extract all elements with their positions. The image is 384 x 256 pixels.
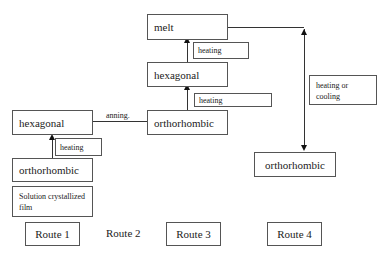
node-label: Solution crystallized film — [19, 191, 89, 213]
edge-label-heating-mid: heating — [194, 93, 272, 107]
edge-annealing — [93, 121, 147, 122]
node-label: orthorhombic — [19, 164, 79, 176]
edge-label: heating or cooling — [316, 80, 366, 102]
edge-label: heating — [198, 46, 222, 55]
node-orthorhombic-route1: orthorhombic — [12, 158, 93, 182]
edge-hex-to-melt — [187, 40, 188, 64]
route-1-label: Route 1 — [25, 222, 80, 246]
node-label: hexagonal — [154, 69, 199, 81]
edge-label-heating-top: heating — [193, 42, 249, 59]
node-label: melt — [154, 21, 174, 33]
node-hexagonal-route1: hexagonal — [12, 110, 93, 135]
route-label: Route 1 — [35, 228, 70, 240]
edge-label-annealing: anning. — [106, 111, 130, 120]
node-label: hexagonal — [19, 117, 64, 129]
edge-melt-vertical — [304, 29, 305, 149]
route-label: Route 3 — [176, 228, 211, 240]
edge-label-heating-left: heating — [55, 138, 102, 156]
node-label: orthorhombic — [154, 117, 214, 129]
edge-label: heating — [199, 96, 223, 105]
node-solution-film: Solution crystallized film — [12, 186, 93, 217]
route-4-label: Route 4 — [267, 222, 322, 246]
route-label: Route 4 — [277, 228, 312, 240]
arrow-down-icon — [301, 145, 307, 151]
arrow-up-icon — [301, 29, 307, 35]
edge-label: heating — [60, 143, 84, 152]
route-2-label: Route 2 — [106, 227, 141, 239]
node-hexagonal-route3: hexagonal — [147, 62, 228, 87]
edge-melt-horizontal — [228, 27, 304, 28]
route-3-label: Route 3 — [166, 222, 221, 246]
node-label: orthorhombic — [265, 159, 325, 171]
note-heating-or-cooling: heating or cooling — [309, 75, 377, 105]
node-orthorhombic-route3: orthorhombic — [147, 110, 228, 135]
node-orthorhombic-route4: orthorhombic — [254, 152, 336, 177]
node-melt: melt — [147, 14, 228, 40]
